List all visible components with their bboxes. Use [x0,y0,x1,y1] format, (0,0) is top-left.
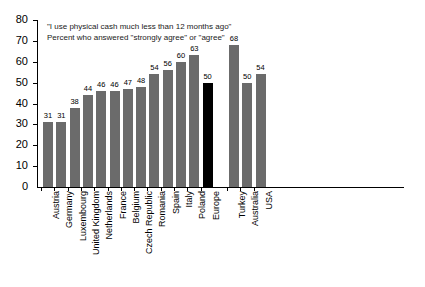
x-axis-tick-mark [227,188,228,191]
y-axis-tick-mark [33,62,37,63]
bar [70,108,80,187]
bar [110,91,120,187]
x-axis-category-label: Romania [158,191,167,227]
x-axis-category-label: Poland [198,191,207,219]
y-axis-tick-label: 80 [0,14,28,25]
x-axis-category-label: Turkey [238,191,247,218]
y-axis-tick-label: 30 [0,118,28,129]
bar [43,122,53,187]
bar-value-label: 50 [196,73,220,81]
y-axis-tick-mark [33,83,37,84]
x-axis-category-label: Germany [65,191,74,228]
y-axis-tick-mark [33,124,37,125]
bar [83,95,93,187]
x-axis-category-label: Europe [212,191,221,220]
y-axis-tick-label: 50 [0,77,28,88]
x-axis-category-label: France [119,191,128,219]
y-axis-tick-mark [33,166,37,167]
x-axis-category-label: Netherlands [105,191,114,240]
y-axis-tick-label: 60 [0,56,28,67]
x-axis-category-label: Czech Republic [145,191,154,254]
y-axis-tick-mark [33,104,37,105]
bar-value-label: 63 [182,45,206,53]
x-axis-category-label: Belgium [132,191,141,224]
y-axis-tick-mark [33,145,37,146]
y-axis-tick-mark [33,41,37,42]
bar-value-label: 54 [249,64,273,72]
bar [163,70,173,187]
x-axis-category-label: United Kingdom [92,191,101,255]
bar [56,122,66,187]
x-axis-category-label: Australia [251,191,260,226]
chart-title-block: "I use physical cash much less than 12 m… [47,22,231,43]
bar [149,74,159,187]
bar-value-label: 68 [222,35,246,43]
bar [136,87,146,187]
bar [176,62,186,187]
y-axis-tick-mark [33,20,37,21]
bar [242,83,252,187]
y-axis-line [37,20,38,187]
y-axis-tick-label: 20 [0,139,28,150]
bar [123,89,133,187]
bar-chart: 01020304050607080 "I use physical cash m… [0,0,425,287]
y-axis-tick-label: 0 [0,181,28,192]
chart-title: "I use physical cash much less than 12 m… [47,22,231,33]
y-axis-tick-label: 40 [0,98,28,109]
x-axis-category-label: Austria [52,191,61,219]
chart-subtitle: Percent who answered "strongly agree" or… [47,33,231,44]
x-axis-category-label: Italy [185,191,194,208]
x-axis-category-label: Luxembourg [79,191,88,241]
x-axis-line [37,187,404,188]
x-axis-category-label: Spain [172,191,181,214]
bar [229,45,239,187]
x-axis-category-label: USA [265,191,274,210]
y-axis-tick-label: 10 [0,160,28,171]
y-axis-tick-label: 70 [0,35,28,46]
x-axis-tick-mark [41,188,42,191]
bar [96,91,106,187]
bar [256,74,266,187]
bar [203,83,213,187]
